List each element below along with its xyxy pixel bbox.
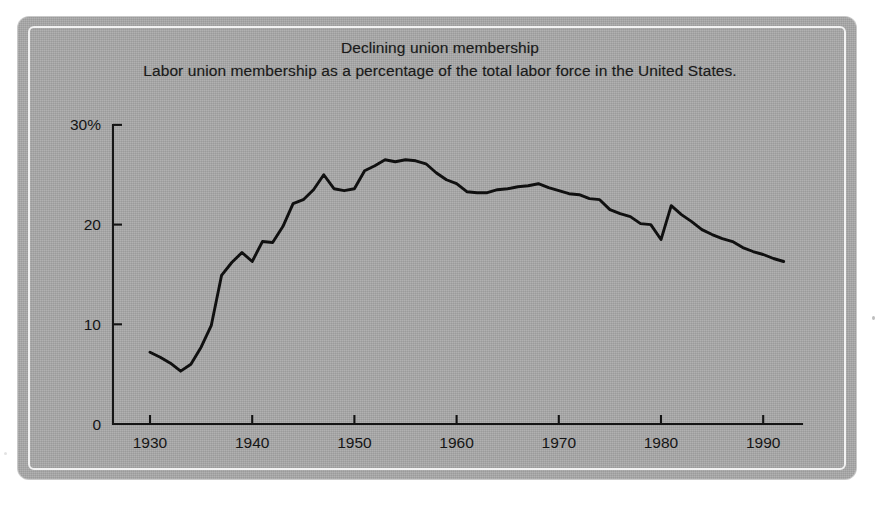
chart-axes: [113, 125, 802, 424]
x-tick-label: 1960: [439, 434, 474, 451]
chart-plot-area: 30%201001930194019501960197019801990: [0, 0, 880, 519]
union-membership-line: [150, 160, 784, 371]
y-tick-label: 20: [84, 216, 102, 233]
x-tick-label: 1930: [133, 434, 168, 451]
y-tick-label: 30%: [70, 116, 101, 133]
chart-tick-labels: 30%201001930194019501960197019801990: [70, 116, 781, 451]
x-tick-label: 1990: [746, 434, 781, 451]
x-tick-label: 1980: [644, 434, 679, 451]
scan-speck-right: [872, 316, 875, 320]
chart-figure: Declining union membership Labor union m…: [0, 0, 880, 519]
x-tick-label: 1970: [542, 434, 577, 451]
scan-speck-left: [4, 452, 7, 455]
y-tick-label: 0: [92, 416, 101, 433]
y-tick-label: 10: [84, 316, 102, 333]
x-tick-label: 1940: [235, 434, 270, 451]
x-tick-label: 1950: [337, 434, 372, 451]
